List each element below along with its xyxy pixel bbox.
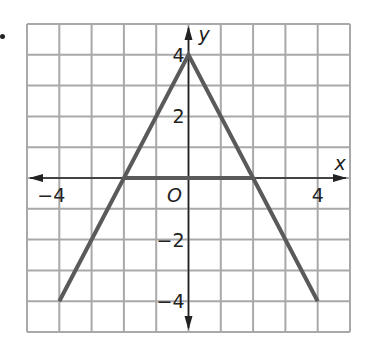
origin-label: O xyxy=(167,184,182,206)
y-axis-down-arrow-icon xyxy=(185,316,193,330)
x-axis-left-arrow-icon xyxy=(29,174,43,182)
y-tick-label: −2 xyxy=(156,229,184,251)
x-tick-label: −4 xyxy=(37,184,65,206)
y-tick-label: −4 xyxy=(156,290,184,312)
coordinate-plane: yxO−4442−2−4 xyxy=(0,0,368,347)
x-axis-label: x xyxy=(333,152,346,174)
y-tick-label: 4 xyxy=(172,44,184,66)
y-axis-label: y xyxy=(198,23,211,45)
y-tick-label: 2 xyxy=(172,105,184,127)
y-axis-up-arrow-icon xyxy=(185,26,193,40)
x-axis-right-arrow-icon xyxy=(333,174,347,182)
x-tick-label: 4 xyxy=(312,184,324,206)
